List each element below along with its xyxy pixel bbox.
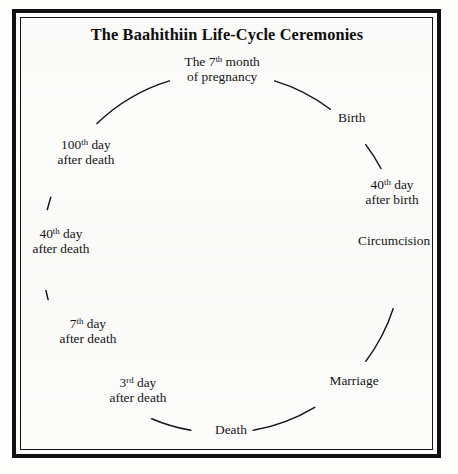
diagram-page: The Baahithiin Life-Cycle Ceremonies The… (0, 0, 458, 474)
node-seventh-day-after-death: 7th dayafter death (60, 316, 117, 347)
ordinal-suffix: th (215, 54, 222, 64)
node-circumcision: Circumcision (358, 233, 430, 249)
cycle-arc-segment (97, 81, 169, 124)
ordinal-suffix: th (53, 226, 60, 236)
node-label-line1: Marriage (330, 373, 379, 388)
cycle-arc-segment (366, 309, 393, 362)
cycle-arc-segment (46, 290, 48, 299)
node-label-line1: 40th day (371, 177, 414, 192)
node-hundredth-day-after-death: 100th dayafter death (58, 137, 115, 168)
node-label-line1: Death (215, 422, 247, 437)
node-label-line2: of pregnancy (185, 69, 260, 85)
node-third-day-after-death: 3rd dayafter death (110, 375, 167, 406)
node-label-line1: Circumcision (358, 233, 430, 248)
node-fortieth-day-after-birth: 40th dayafter birth (366, 177, 419, 208)
node-label-line1: 7th day (70, 316, 106, 331)
cycle-arc-segment (47, 197, 50, 209)
node-label-line2: after death (110, 390, 167, 406)
node-label-line2: after death (33, 241, 90, 257)
node-label-line2: after death (60, 331, 117, 347)
node-label-line1: The 7th month (185, 54, 260, 69)
ordinal-suffix: th (384, 177, 391, 187)
node-label-line1: 40th day (39, 226, 82, 241)
node-label-line2: after death (58, 152, 115, 168)
node-fortieth-day-after-death: 40th dayafter death (33, 226, 90, 257)
node-pregnancy: The 7th monthof pregnancy (185, 54, 260, 85)
cycle-arc-segment (275, 81, 331, 109)
node-label-line1: 3rd day (120, 375, 157, 390)
ordinal-suffix: th (81, 137, 88, 147)
node-birth: Birth (338, 110, 366, 126)
cycle-arc-segment (253, 407, 314, 430)
node-label-line1: 100th day (61, 137, 111, 152)
cycle-arc-segment (152, 419, 191, 431)
node-label-line2: after birth (366, 192, 419, 208)
ordinal-suffix: rd (126, 375, 133, 385)
node-marriage: Marriage (330, 373, 379, 389)
cycle-arc-segment (366, 145, 381, 169)
node-death: Death (215, 422, 247, 438)
node-label-line1: Birth (338, 110, 366, 125)
ordinal-suffix: th (77, 316, 84, 326)
